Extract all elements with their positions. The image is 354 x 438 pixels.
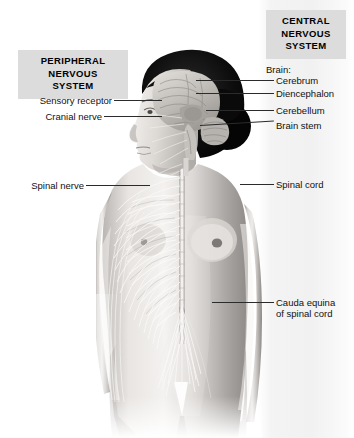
cns-line-1: CENTRAL <box>266 15 346 28</box>
nervous-system-diagram: CENTRAL NERVOUS SYSTEM PERIPHERAL NERVOU… <box>0 0 354 438</box>
pns-line-2: NERVOUS <box>18 68 128 81</box>
leader-cauda-equina <box>212 302 274 303</box>
label-cranial-nerve: Cranial nerve <box>18 111 102 123</box>
label-cauda-equina-line1: Cauda equina <box>276 297 335 309</box>
cns-line-3: SYSTEM <box>266 40 346 53</box>
leader-cerebellum <box>206 110 274 111</box>
label-diencephalon: Diencephalon <box>276 88 334 100</box>
leader-spinal-cord <box>240 184 274 185</box>
human-figure-illustration <box>96 44 262 438</box>
label-sensory-receptor: Sensory receptor <box>18 95 112 107</box>
cns-line-2: NERVOUS <box>266 28 346 41</box>
label-cerebrum: Cerebrum <box>276 75 318 87</box>
leader-cerebrum <box>196 80 274 81</box>
body-nervous-system-graphic <box>96 44 262 438</box>
leader-cranial-nerve <box>104 116 162 117</box>
leader-spinal-nerve <box>86 185 150 186</box>
leader-diencephalon <box>196 93 274 94</box>
label-brain-group: Brain: <box>266 64 291 76</box>
label-spinal-nerve: Spinal nerve <box>18 180 84 192</box>
label-spinal-cord: Spinal cord <box>276 179 324 191</box>
label-cauda-equina-line2: of spinal cord <box>276 308 333 320</box>
central-nervous-system-header: CENTRAL NERVOUS SYSTEM <box>266 10 346 59</box>
pns-line-3: SYSTEM <box>18 80 128 93</box>
peripheral-nervous-system-header: PERIPHERAL NERVOUS SYSTEM <box>18 50 128 99</box>
leader-sensory-receptor <box>114 100 162 101</box>
pns-line-1: PERIPHERAL <box>18 55 128 68</box>
label-brain-stem: Brain stem <box>276 120 321 132</box>
label-cerebellum: Cerebellum <box>276 105 325 117</box>
